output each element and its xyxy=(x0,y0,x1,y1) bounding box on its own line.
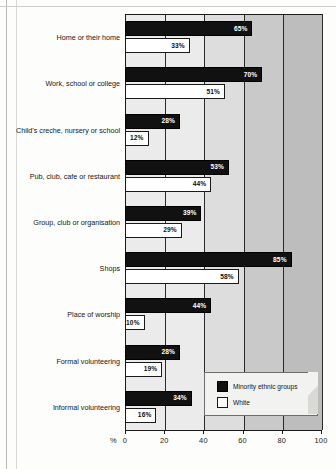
axis-bottom-rule xyxy=(125,430,322,431)
legend-swatch-light xyxy=(217,397,228,408)
category-label: Shops xyxy=(0,264,120,273)
bar-value-label: 39% xyxy=(183,210,197,217)
legend-item-white: White xyxy=(217,397,250,408)
bar-value-label: 10% xyxy=(126,320,140,327)
legend-item-minority-ethnic-groups: Minority ethnic groups xyxy=(217,381,298,392)
bar-minority-ethnic-groups: 85% xyxy=(125,252,292,267)
bar-white: 51% xyxy=(125,84,225,99)
legend-label-minority-ethnic-groups: Minority ethnic groups xyxy=(233,383,298,390)
bar-minority-ethnic-groups: 44% xyxy=(125,298,211,313)
x-tick-mark-100 xyxy=(321,430,322,434)
x-tick-label-40: 40 xyxy=(199,436,208,445)
bar-value-label: 65% xyxy=(234,25,248,32)
chart-row: Place of worship44%10% xyxy=(0,291,336,337)
bar-minority-ethnic-groups: 34% xyxy=(125,391,192,406)
bar-value-label: 19% xyxy=(144,366,158,373)
bar-value-label: 12% xyxy=(130,135,144,142)
legend-label-white: White xyxy=(233,399,250,406)
bar-value-label: 28% xyxy=(161,349,175,356)
chart-row: Shops85%58% xyxy=(0,245,336,291)
bar-white: 19% xyxy=(125,362,162,377)
bar-value-label: 34% xyxy=(173,395,187,402)
x-tick-label-100: 100 xyxy=(315,436,328,445)
legend-swatch-dark xyxy=(217,381,228,392)
category-label: Group, club or organisation xyxy=(0,218,120,227)
horizontal-bar-chart: Home or their home65%33%Work, school or … xyxy=(0,0,336,469)
x-axis-unit-label: % xyxy=(110,436,117,445)
x-tick-mark-0 xyxy=(125,430,126,434)
x-tick-label-60: 60 xyxy=(238,436,247,445)
bar-white: 44% xyxy=(125,177,211,192)
chart-legend: Minority ethnic groups White xyxy=(204,372,318,416)
bar-minority-ethnic-groups: 28% xyxy=(125,114,180,129)
x-tick-label-80: 80 xyxy=(277,436,286,445)
bar-minority-ethnic-groups: 65% xyxy=(125,21,252,36)
bar-value-label: 28% xyxy=(161,118,175,125)
chart-row: Pub, club, cafe or restaurant53%44% xyxy=(0,153,336,199)
bar-white: 10% xyxy=(125,315,145,330)
bar-value-label: 70% xyxy=(244,72,258,79)
x-tick-mark-40 xyxy=(203,430,204,434)
bar-white: 16% xyxy=(125,408,156,423)
bar-white: 12% xyxy=(125,131,149,146)
bar-value-label: 29% xyxy=(163,227,177,234)
bar-minority-ethnic-groups: 53% xyxy=(125,160,229,175)
bar-value-label: 51% xyxy=(206,89,220,96)
chart-row: Work, school or college70%51% xyxy=(0,60,336,106)
category-label: Pub, club, cafe or restaurant xyxy=(0,172,120,181)
x-tick-label-0: 0 xyxy=(123,436,127,445)
bar-value-label: 33% xyxy=(171,42,185,49)
bar-value-label: 85% xyxy=(273,256,287,263)
bar-minority-ethnic-groups: 28% xyxy=(125,345,180,360)
category-label: Child's creche, nursery or school xyxy=(0,126,120,135)
category-label: Formal volunteering xyxy=(0,357,120,366)
bar-white: 33% xyxy=(125,38,190,53)
bar-minority-ethnic-groups: 39% xyxy=(125,206,201,221)
chart-row: Home or their home65%33% xyxy=(0,14,336,60)
category-label: Place of worship xyxy=(0,310,120,319)
category-label: Informal volunteering xyxy=(0,403,120,412)
chart-row: Group, club or organisation39%29% xyxy=(0,199,336,245)
x-tick-label-20: 20 xyxy=(160,436,169,445)
bar-value-label: 58% xyxy=(220,273,234,280)
category-label: Work, school or college xyxy=(0,79,120,88)
legend-torn-edge xyxy=(308,372,318,414)
bar-value-label: 53% xyxy=(210,164,224,171)
bar-value-label: 16% xyxy=(138,412,152,419)
bar-minority-ethnic-groups: 70% xyxy=(125,67,262,82)
x-tick-mark-60 xyxy=(243,430,244,434)
scanned-page: Home or their home65%33%Work, school or … xyxy=(0,0,336,469)
category-label: Home or their home xyxy=(0,33,120,42)
bar-value-label: 44% xyxy=(193,181,207,188)
x-tick-mark-80 xyxy=(282,430,283,434)
bar-white: 29% xyxy=(125,223,182,238)
chart-row: Child's creche, nursery or school28%12% xyxy=(0,106,336,152)
x-tick-mark-20 xyxy=(164,430,165,434)
bar-value-label: 44% xyxy=(193,303,207,310)
bar-white: 58% xyxy=(125,269,239,284)
